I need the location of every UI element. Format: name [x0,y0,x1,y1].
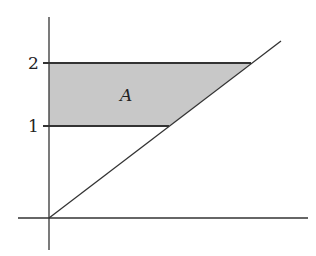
shaded-region-a [49,63,251,126]
region-label: A [118,85,132,105]
region-diagram: 2 1 A [0,0,316,256]
y-tick-label-1: 1 [28,116,39,136]
y-tick-label-2: 2 [28,53,39,73]
